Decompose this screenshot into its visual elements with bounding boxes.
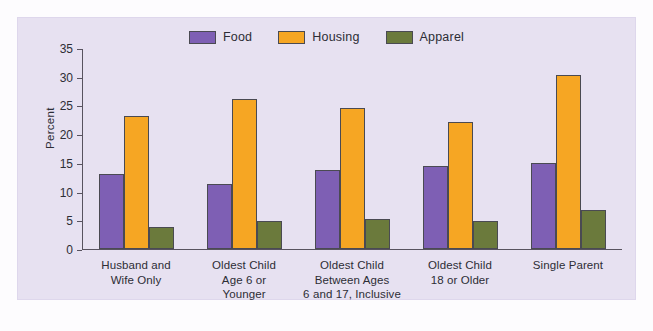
bar-group <box>315 48 390 249</box>
legend-item-food[interactable]: Food <box>189 30 252 44</box>
y-tick-label: 20 <box>60 128 73 142</box>
bar-group <box>531 48 606 249</box>
legend-swatch-apparel <box>386 31 413 44</box>
category-label-line: 18 or Older <box>390 273 530 288</box>
y-tick-label: 15 <box>60 157 73 171</box>
bar-housing[interactable] <box>448 122 473 249</box>
y-tick-label: 30 <box>60 71 73 85</box>
bar-group <box>207 48 282 249</box>
y-tick-mark <box>77 250 82 251</box>
legend-swatch-food <box>189 31 216 44</box>
legend-swatch-housing <box>278 31 305 44</box>
bar-apparel[interactable] <box>149 227 174 249</box>
y-tick-label: 10 <box>60 186 73 200</box>
y-tick-mark <box>77 106 82 107</box>
legend-label-food: Food <box>223 30 252 44</box>
y-tick-mark <box>77 164 82 165</box>
bar-food[interactable] <box>99 174 124 249</box>
bar-housing[interactable] <box>340 108 365 249</box>
y-tick-mark <box>77 193 82 194</box>
y-tick-label: 5 <box>66 214 73 228</box>
y-tick-mark <box>77 78 82 79</box>
bar-food[interactable] <box>315 170 340 249</box>
chart-panel: Food Housing Apparel Percent 05101520253… <box>18 18 635 299</box>
category-label: Single Parent <box>498 258 638 273</box>
bar-housing[interactable] <box>556 75 581 249</box>
legend-label-apparel: Apparel <box>420 30 465 44</box>
x-axis-line <box>82 249 622 250</box>
legend-label-housing: Housing <box>312 30 359 44</box>
y-tick-label: 25 <box>60 99 73 113</box>
y-axis-line <box>82 49 83 250</box>
y-tick-label: 35 <box>60 42 73 56</box>
page-canvas: Food Housing Apparel Percent 05101520253… <box>0 0 653 331</box>
bar-food[interactable] <box>207 184 232 249</box>
y-tick-label: 0 <box>66 243 73 257</box>
bar-apparel[interactable] <box>365 219 390 249</box>
bar-housing[interactable] <box>232 99 257 249</box>
bar-apparel[interactable] <box>257 221 282 249</box>
plot-area: 05101520253035 <box>82 49 622 250</box>
bar-group <box>423 48 498 249</box>
y-tick-mark <box>77 221 82 222</box>
y-tick-mark <box>77 135 82 136</box>
bar-food[interactable] <box>531 163 556 249</box>
y-axis-label: Percent <box>44 107 56 149</box>
bar-housing[interactable] <box>124 116 149 249</box>
legend-item-housing[interactable]: Housing <box>278 30 359 44</box>
bar-apparel[interactable] <box>473 221 498 249</box>
category-label-line: Single Parent <box>498 258 638 273</box>
y-tick-mark <box>77 49 82 50</box>
bar-apparel[interactable] <box>581 210 606 249</box>
category-label-line: 6 and 17, Inclusive <box>282 287 422 302</box>
chart-legend: Food Housing Apparel <box>18 30 635 44</box>
bar-group <box>99 48 174 249</box>
bar-food[interactable] <box>423 166 448 249</box>
legend-item-apparel[interactable]: Apparel <box>386 30 465 44</box>
